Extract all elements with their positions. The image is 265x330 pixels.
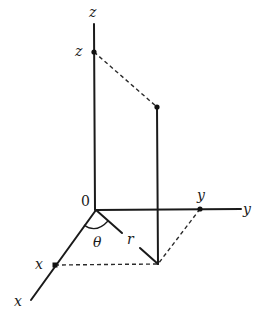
x-axis-label: x	[14, 293, 22, 309]
elevated-point-dot	[154, 104, 159, 109]
r-segment-upper	[96, 210, 122, 233]
y-axis	[96, 209, 241, 210]
r-segment-lower	[140, 248, 158, 264]
y-point-dot	[197, 206, 202, 211]
y-point-label: y	[196, 187, 206, 203]
origin-label: 0	[81, 193, 90, 209]
height-line	[157, 107, 158, 264]
z-axis-label: z	[88, 4, 97, 20]
dashed-z-to-point	[94, 52, 157, 107]
z-point-label: z	[74, 43, 83, 59]
z-point-dot	[91, 49, 96, 54]
x-point-dot	[53, 263, 58, 268]
r-label: r	[127, 231, 135, 247]
y-axis-label: y	[242, 201, 252, 217]
dashed-y-to-base	[158, 209, 200, 264]
dashed-x-to-base	[55, 264, 158, 265]
cylindrical-coordinates-diagram: z z 0 y y x x θ r	[0, 0, 265, 330]
theta-label: θ	[93, 234, 102, 250]
x-axis	[31, 210, 96, 300]
x-point-label: x	[35, 256, 43, 272]
